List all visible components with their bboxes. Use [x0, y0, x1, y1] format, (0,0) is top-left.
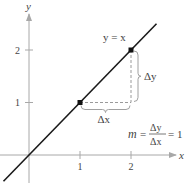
slope-equals: = — [140, 128, 146, 140]
delta-guides — [80, 50, 141, 113]
data-point — [129, 48, 134, 53]
slope-m: m — [128, 127, 137, 141]
slope-formula: m = Δy Δx = 1 — [128, 122, 182, 147]
delta-y-brace — [134, 51, 141, 102]
y-tick-label: 2 — [15, 45, 20, 56]
x-tick-label: 1 — [78, 161, 83, 172]
y-tick-label: 1 — [15, 97, 20, 108]
slope-result: = 1 — [168, 128, 182, 140]
slope-denominator: Δx — [150, 136, 161, 147]
data-point — [78, 100, 83, 105]
x-tick-label: 2 — [129, 161, 134, 172]
y-axis-label: y — [25, 0, 31, 12]
delta-y-label: Δy — [144, 70, 157, 82]
slope-numerator: Δy — [150, 122, 161, 133]
x-axis-label: x — [178, 149, 184, 161]
line-label: y = x — [103, 31, 126, 43]
delta-x-label: Δx — [98, 113, 111, 125]
delta-x-brace — [81, 106, 130, 113]
slope-chart: 1212 x y y = x Δx Δy m = Δy Δx = 1 — [0, 0, 188, 189]
